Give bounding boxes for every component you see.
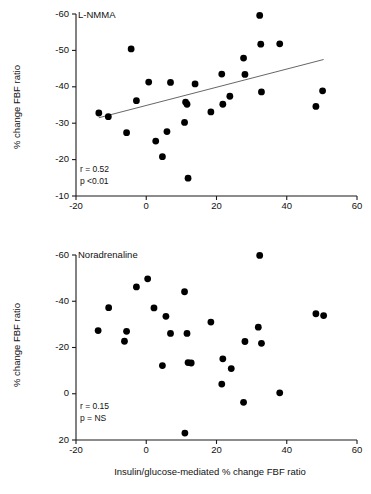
y-tick-label: -60 xyxy=(55,249,69,260)
data-point xyxy=(163,313,170,320)
data-point xyxy=(128,46,135,53)
data-point xyxy=(181,119,188,126)
data-point xyxy=(276,389,283,396)
data-point xyxy=(228,365,235,372)
x-tick-label: 40 xyxy=(281,444,292,455)
y-tick-label: 0 xyxy=(64,387,69,398)
data-point xyxy=(256,252,263,259)
data-point xyxy=(181,288,188,295)
data-point xyxy=(219,355,226,362)
data-point xyxy=(218,71,225,78)
x-tick-label: 60 xyxy=(352,444,363,455)
stat-p-bottom: p = NS xyxy=(80,413,107,423)
y-tick-label: -50 xyxy=(55,44,69,55)
scatter-plot-l-nmma: % change FBF ratio -60-50-40-30-20-10-20… xyxy=(0,0,371,240)
data-point xyxy=(188,360,195,367)
stat-p-top: p <0.01 xyxy=(80,176,109,186)
data-point xyxy=(242,71,249,78)
data-point xyxy=(105,113,112,120)
data-point xyxy=(123,328,130,335)
data-point xyxy=(258,340,265,347)
data-point xyxy=(192,80,199,87)
y-axis-title-top-text: % change FBF ratio xyxy=(11,65,22,149)
data-point xyxy=(313,310,320,317)
data-point xyxy=(145,79,152,86)
data-point xyxy=(320,312,327,319)
data-point xyxy=(151,305,158,312)
data-points-top xyxy=(95,12,326,182)
y-tick-label: -40 xyxy=(55,295,69,306)
y-tick-label: -20 xyxy=(55,153,69,164)
data-point xyxy=(181,430,188,437)
data-point xyxy=(258,89,265,96)
data-point xyxy=(167,79,174,86)
data-point xyxy=(207,319,214,326)
y-axis-title-bottom-text: % change FBF ratio xyxy=(11,303,22,387)
data-point xyxy=(240,399,247,406)
data-point xyxy=(226,93,233,100)
panel-noradrenaline: % change FBF ratio -60-40-20020-20020406… xyxy=(0,240,371,494)
data-point xyxy=(159,153,166,160)
data-point xyxy=(123,129,130,136)
data-point xyxy=(144,275,151,282)
data-point xyxy=(257,41,264,48)
data-point xyxy=(95,110,102,117)
x-axis-title: Insulin/glucose-mediated % change FBF ra… xyxy=(114,466,306,477)
y-tick-label: -10 xyxy=(55,190,69,201)
axes-bottom: -60-40-20020-200204060 xyxy=(55,249,362,456)
x-tick-label: -20 xyxy=(69,200,83,211)
y-tick-label: -40 xyxy=(55,80,69,91)
data-point xyxy=(207,109,214,116)
data-point xyxy=(276,40,283,47)
x-tick-label: 20 xyxy=(211,200,222,211)
data-point xyxy=(240,55,247,62)
y-axis-title-bottom: % change FBF ratio xyxy=(11,303,22,387)
data-point xyxy=(95,327,102,334)
x-tick-label: 0 xyxy=(144,200,149,211)
x-tick-label: -20 xyxy=(69,444,83,455)
figure-container: % change FBF ratio -60-50-40-30-20-10-20… xyxy=(0,0,371,494)
x-tick-label: 20 xyxy=(211,444,222,455)
data-point xyxy=(256,12,263,19)
x-tick-label: 0 xyxy=(144,444,149,455)
data-point xyxy=(133,284,140,291)
y-tick-label: -20 xyxy=(55,341,69,352)
data-point xyxy=(184,101,191,108)
y-tick-label: 20 xyxy=(58,434,69,445)
panel-title-bottom: Noradrenaline xyxy=(78,249,138,260)
data-point xyxy=(218,381,225,388)
data-point xyxy=(105,304,112,311)
y-tick-label: -60 xyxy=(55,8,69,19)
data-point xyxy=(255,324,262,331)
data-point xyxy=(164,128,171,135)
data-point xyxy=(319,87,326,94)
x-tick-label: 40 xyxy=(281,200,292,211)
y-tick-label: -30 xyxy=(55,117,69,128)
data-point xyxy=(159,362,166,369)
data-point xyxy=(184,330,191,337)
data-point xyxy=(242,338,249,345)
data-point xyxy=(133,97,140,104)
data-point xyxy=(185,175,192,182)
stat-r-top: r = 0.52 xyxy=(80,164,109,174)
x-tick-label: 60 xyxy=(352,200,363,211)
data-points-bottom xyxy=(95,252,327,436)
y-axis-title-top: % change FBF ratio xyxy=(11,65,22,149)
data-point xyxy=(167,330,174,337)
scatter-plot-noradrenaline: % change FBF ratio -60-40-20020-20020406… xyxy=(0,240,371,494)
data-point xyxy=(152,138,159,145)
data-point xyxy=(219,101,226,108)
stat-r-bottom: r = 0.15 xyxy=(80,401,109,411)
panel-title-top: L-NMMA xyxy=(78,9,116,20)
data-point xyxy=(121,338,128,345)
panel-l-nmma: % change FBF ratio -60-50-40-30-20-10-20… xyxy=(0,0,371,240)
data-point xyxy=(313,103,320,110)
